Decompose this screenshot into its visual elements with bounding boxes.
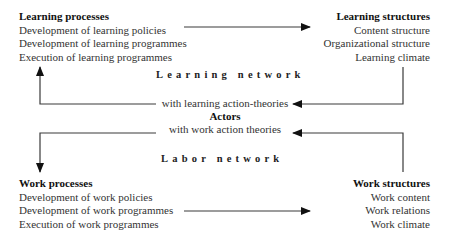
arrow-actors-to-work-processes <box>40 133 156 172</box>
learning-processes-title: Learning processes <box>19 10 187 24</box>
learning-structures-item: Organizational structure <box>324 37 430 51</box>
work-processes-block: Work processes Development of work polic… <box>19 177 173 231</box>
learning-structures-item: Learning climate <box>324 51 430 65</box>
actors-learning-theories: with learning action-theories <box>150 97 300 109</box>
actors-work-theories: with work action theories <box>150 123 300 135</box>
learning-structures-item: Content structure <box>324 24 430 38</box>
learning-structures-block: Learning structures Content structure Or… <box>324 10 430 64</box>
arrow-work-structures-to-actors <box>293 133 403 172</box>
learning-processes-item: Execution of learning programmes <box>19 51 187 65</box>
labor-network-label: Labor network <box>161 153 283 164</box>
work-structures-item: Work content <box>353 191 430 205</box>
arrow-learning-structures-to-actors <box>293 67 403 104</box>
work-processes-item: Development of work policies <box>19 191 173 205</box>
work-structures-block: Work structures Work content Work relati… <box>353 177 430 231</box>
learning-network-label: Learning network <box>156 69 305 80</box>
learning-processes-item: Development of learning programmes <box>19 37 187 51</box>
work-processes-item: Development of work programmes <box>19 204 173 218</box>
work-processes-title: Work processes <box>19 177 173 191</box>
learning-processes-item: Development of learning policies <box>19 24 187 38</box>
learning-processes-block: Learning processes Development of learni… <box>19 10 187 64</box>
work-structures-title: Work structures <box>353 177 430 191</box>
learning-structures-title: Learning structures <box>324 10 430 24</box>
work-structures-item: Work climate <box>353 218 430 232</box>
work-processes-item: Execution of work programmes <box>19 218 173 232</box>
work-structures-item: Work relations <box>353 204 430 218</box>
actors-title: Actors <box>150 110 300 122</box>
arrow-actors-to-learning-processes <box>40 67 156 104</box>
